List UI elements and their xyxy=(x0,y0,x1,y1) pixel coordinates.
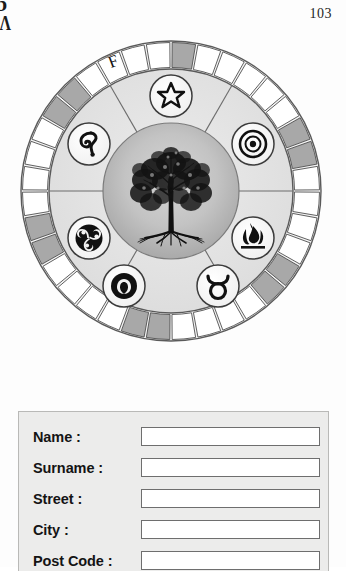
serpent-spiral-icon xyxy=(68,123,110,165)
postcode-label: Post Code : xyxy=(33,553,141,569)
pentagram-star-icon xyxy=(150,75,192,117)
edge-mark-2: Λ xyxy=(0,12,11,35)
form-row-surname: Surname : xyxy=(19,452,328,483)
sun-circle-dot-icon xyxy=(232,123,274,165)
name-label: Name : xyxy=(33,429,141,445)
outer-ring-segment xyxy=(172,43,196,70)
triskelion-spiral-icon xyxy=(68,217,110,259)
postcode-input[interactable] xyxy=(141,551,320,570)
form-row-postcode: Post Code : xyxy=(19,545,328,575)
outer-ring-segment xyxy=(146,313,170,340)
flame-fire-icon xyxy=(232,217,274,259)
form-row-street: Street : xyxy=(19,483,328,514)
surname-label: Surname : xyxy=(33,460,141,476)
form-row-city: City : xyxy=(19,514,328,545)
outer-ring-segment xyxy=(23,166,50,190)
street-label: Street : xyxy=(33,491,141,507)
city-input[interactable] xyxy=(141,520,320,539)
name-input[interactable] xyxy=(141,427,320,446)
surname-input[interactable] xyxy=(141,458,320,477)
outer-ring-segment xyxy=(172,313,196,340)
eye-seed-icon xyxy=(103,265,145,307)
street-input[interactable] xyxy=(141,489,320,508)
outer-ring-segment xyxy=(293,166,320,190)
address-form: Name : Surname : Street : City : Post Co… xyxy=(18,411,329,571)
city-label: City : xyxy=(33,522,141,538)
form-row-name: Name : xyxy=(19,421,328,452)
taurus-zodiac-icon xyxy=(197,265,239,307)
outer-ring-segment xyxy=(146,43,170,70)
outer-ring-segment xyxy=(23,192,50,216)
page-number: 103 xyxy=(310,6,333,22)
outer-ring-segment xyxy=(293,192,320,216)
mandala-wheel: F xyxy=(19,26,323,356)
